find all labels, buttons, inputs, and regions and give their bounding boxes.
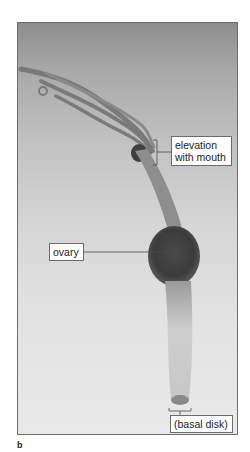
basal-disk-region [171,395,189,405]
panel-letter: b [17,440,23,450]
label-elevation-with-mouth: elevation with mouth [171,136,232,166]
specimen-photo [17,22,238,435]
label-ovary: ovary [49,243,84,261]
ovary-region [148,226,200,286]
specimen-illustration [18,23,237,434]
label-basal-disk: (basal disk) [170,415,233,433]
figure: elevation with mouth ovary (basal disk) … [0,0,250,452]
label-elevation-line2: with mouth [175,151,227,163]
foot-stalk [165,281,192,404]
tentacles [21,69,154,153]
label-elevation-line1: elevation [175,139,227,151]
